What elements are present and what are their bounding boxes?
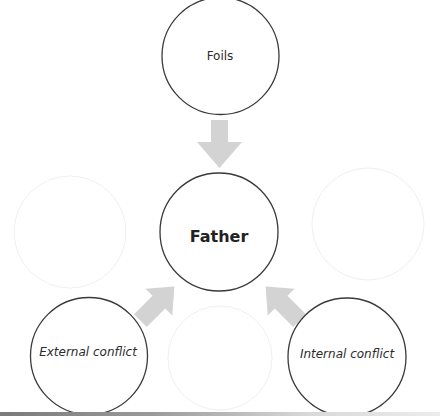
ghost-circle-bottom xyxy=(168,306,272,410)
ghost-circle-right xyxy=(312,168,424,280)
arrow-down-icon xyxy=(197,120,242,168)
ghost-circle-left xyxy=(14,176,126,288)
bottom-divider xyxy=(0,412,440,416)
node-label-external-conflict: External conflict xyxy=(39,345,137,359)
node-label-father: Father xyxy=(190,227,249,246)
node-label-foils: Foils xyxy=(207,49,234,63)
node-label-internal-conflict: Internal conflict xyxy=(300,347,394,361)
